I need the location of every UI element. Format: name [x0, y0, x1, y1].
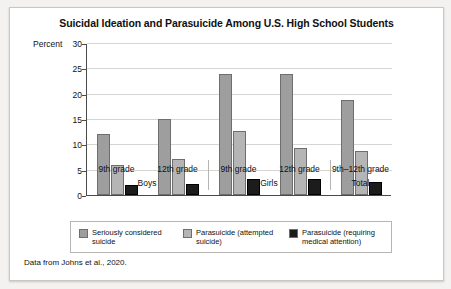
y-tick-label: 25 [62, 64, 82, 74]
y-tick-label: 10 [62, 140, 82, 150]
x-tick-label: 9th–12th grade [326, 164, 396, 174]
legend-swatch [79, 229, 88, 238]
legend-label: Parasuicide (attempted suicide) [196, 228, 287, 246]
gridline [87, 68, 392, 69]
gridline [87, 94, 392, 95]
group-separator [208, 160, 209, 190]
legend-item: Parasuicide (attempted suicide) [183, 228, 287, 246]
y-tick-label: 30 [62, 39, 82, 49]
bar [219, 74, 232, 195]
figure-card: Suicidal Ideation and Parasuicide Among … [9, 7, 444, 281]
y-tick-mark [82, 120, 86, 121]
x-tick-label: 12th grade [265, 164, 335, 174]
y-tick-mark [82, 69, 86, 70]
x-group-label: Boys [87, 178, 207, 188]
group-separator [330, 160, 331, 190]
y-axis-label: Percent [33, 39, 62, 49]
x-tick-label: 9th grade [82, 164, 152, 174]
legend-item: Parasuicide (requiring medical attention… [289, 228, 385, 246]
x-tick-label: 12th grade [143, 164, 213, 174]
chart-title: Suicidal Ideation and Parasuicide Among … [10, 17, 443, 29]
gridline [87, 43, 392, 44]
legend-swatch [183, 229, 192, 238]
y-tick-mark [82, 196, 86, 197]
y-tick-mark [82, 145, 86, 146]
chart-legend: Seriously considered suicideParasuicide … [70, 221, 392, 253]
y-tick-label: 5 [62, 166, 82, 176]
y-tick-label: 15 [62, 115, 82, 125]
y-tick-label: 20 [62, 90, 82, 100]
source-note: Data from Johns et al., 2020. [24, 258, 127, 267]
legend-label: Seriously considered suicide [92, 228, 179, 246]
y-tick-label: 0 [62, 191, 82, 201]
y-tick-mark [82, 95, 86, 96]
legend-item: Seriously considered suicide [79, 228, 179, 246]
legend-swatch [289, 229, 298, 238]
legend-label: Parasuicide (requiring medical attention… [302, 228, 385, 246]
x-group-label: Total [301, 178, 421, 188]
x-tick-label: 9th grade [204, 164, 274, 174]
bar [280, 74, 293, 195]
y-tick-mark [82, 44, 86, 45]
